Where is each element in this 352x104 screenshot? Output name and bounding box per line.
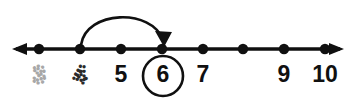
tick-label-4: 4 bbox=[74, 62, 87, 88]
tick-dot-8[interactable] bbox=[238, 44, 248, 54]
left-arrowhead-icon bbox=[12, 43, 27, 55]
tick-dot-3[interactable] bbox=[34, 44, 44, 54]
tick-label-5: 5 bbox=[115, 61, 128, 87]
tick-label-7: 7 bbox=[197, 61, 210, 87]
tick-label-3: 3 bbox=[33, 62, 46, 88]
number-line-figure: 3 4 5 6 7 9 10 bbox=[0, 0, 352, 104]
tick-dot-10[interactable] bbox=[320, 44, 330, 54]
right-arrowhead-icon bbox=[329, 43, 344, 55]
number-line-worksheet: 3 4 5 6 7 9 10 bbox=[0, 0, 352, 104]
tick-dot-6[interactable] bbox=[157, 44, 167, 54]
tick-dot-9[interactable] bbox=[279, 44, 289, 54]
tick-label-6: 6 bbox=[157, 61, 170, 87]
tick-dot-7[interactable] bbox=[198, 44, 208, 54]
jump-arc-path bbox=[81, 17, 163, 45]
tick-dot-5[interactable] bbox=[116, 44, 126, 54]
tick-label-10: 10 bbox=[312, 61, 338, 87]
jump-arc-arrowhead-icon bbox=[155, 31, 172, 47]
tick-label-9: 9 bbox=[278, 61, 291, 87]
